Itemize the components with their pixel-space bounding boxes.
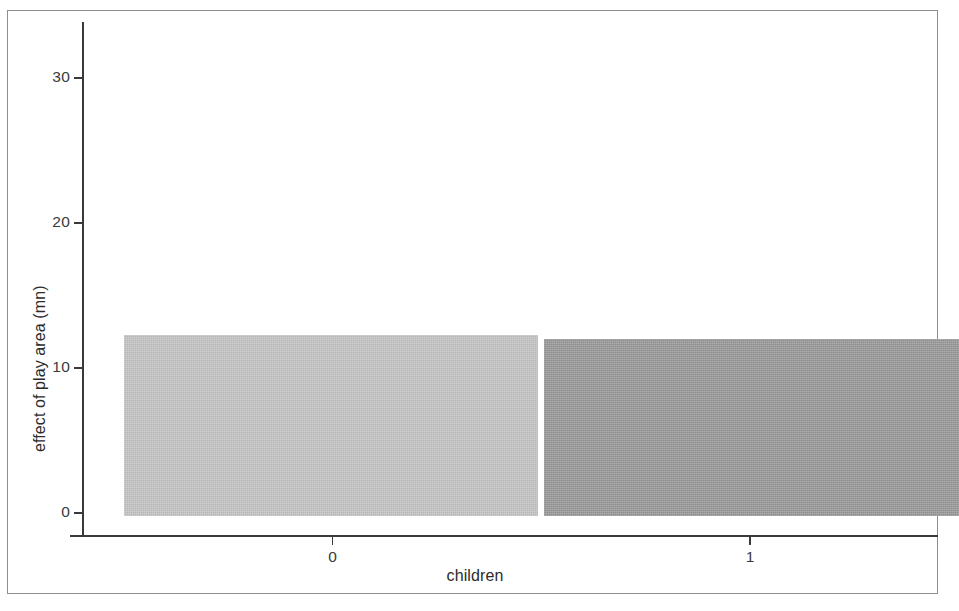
x-axis-line	[70, 535, 938, 537]
bar-category-1	[544, 339, 959, 516]
x-axis-title: children	[0, 567, 950, 585]
y-axis-title: effect of play area (mn)	[31, 32, 57, 452]
y-axis-line	[82, 22, 84, 536]
x-tick-mark	[749, 536, 751, 545]
y-tick-label: 0	[30, 503, 70, 521]
y-tick-mark	[74, 512, 82, 514]
y-tick-mark	[74, 77, 82, 79]
x-tick-label: 1	[720, 548, 780, 566]
y-tick-mark	[74, 222, 82, 224]
x-tick-label: 0	[303, 548, 363, 566]
y-tick-mark	[74, 367, 82, 369]
x-tick-mark	[332, 536, 334, 545]
bar-category-0	[124, 335, 539, 516]
